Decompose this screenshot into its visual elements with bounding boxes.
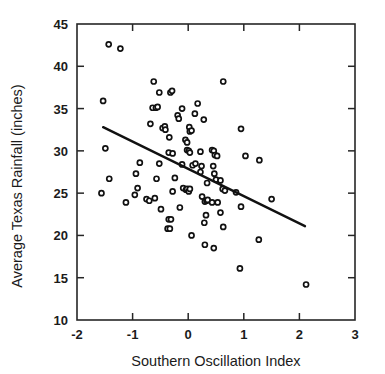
data-point bbox=[170, 88, 175, 93]
y-tick-label: 25 bbox=[54, 186, 68, 201]
data-point bbox=[189, 233, 194, 238]
data-point bbox=[118, 46, 123, 51]
data-point bbox=[218, 178, 223, 183]
scatter-plot-figure: 1015202530354045 -2-10123 Southern Oscil… bbox=[0, 0, 385, 374]
data-point bbox=[212, 171, 217, 176]
data-point bbox=[172, 175, 177, 180]
data-point bbox=[176, 116, 181, 121]
data-point bbox=[221, 224, 226, 229]
data-point bbox=[198, 149, 203, 154]
data-point bbox=[133, 171, 138, 176]
data-point bbox=[189, 128, 194, 133]
data-point bbox=[187, 150, 192, 155]
data-point bbox=[202, 220, 207, 225]
data-point bbox=[106, 42, 111, 47]
data-point bbox=[185, 140, 190, 145]
y-tick-label: 15 bbox=[54, 271, 68, 286]
data-point bbox=[200, 194, 205, 199]
data-point bbox=[148, 121, 153, 126]
data-point bbox=[123, 200, 128, 205]
data-point bbox=[195, 101, 200, 106]
data-point bbox=[215, 200, 220, 205]
data-point bbox=[239, 126, 244, 131]
data-point bbox=[167, 135, 172, 140]
data-point bbox=[158, 207, 163, 212]
y-tick-label: 30 bbox=[54, 144, 68, 159]
data-point bbox=[157, 161, 162, 166]
regression-line bbox=[103, 127, 305, 226]
data-point bbox=[203, 213, 208, 218]
data-point bbox=[215, 153, 220, 158]
scatter-points bbox=[99, 42, 309, 287]
data-point bbox=[201, 117, 206, 122]
data-point bbox=[193, 161, 198, 166]
data-point bbox=[304, 282, 309, 287]
x-tick-label: 1 bbox=[240, 327, 247, 342]
data-point bbox=[132, 192, 137, 197]
y-tick-label: 45 bbox=[54, 17, 68, 32]
data-point bbox=[137, 160, 142, 165]
data-point bbox=[187, 186, 192, 191]
data-point bbox=[170, 189, 175, 194]
data-point bbox=[157, 90, 162, 95]
y-axis-tick-labels: 1015202530354045 bbox=[54, 17, 68, 328]
data-point bbox=[239, 204, 244, 209]
x-tick-label: 3 bbox=[351, 327, 358, 342]
data-point bbox=[107, 176, 112, 181]
data-point bbox=[199, 164, 204, 169]
x-tick-label: 0 bbox=[185, 327, 192, 342]
data-point bbox=[101, 98, 106, 103]
data-point bbox=[202, 242, 207, 247]
trend-line-segment bbox=[103, 127, 305, 226]
data-point bbox=[192, 111, 197, 116]
data-point bbox=[177, 205, 182, 210]
data-point bbox=[170, 151, 175, 156]
data-point bbox=[151, 79, 156, 84]
y-tick-label: 40 bbox=[54, 59, 68, 74]
x-axis-title: Southern Oscillation Index bbox=[131, 353, 301, 369]
data-point bbox=[135, 186, 140, 191]
data-point bbox=[210, 200, 215, 205]
y-axis-title: Average Texas Rainfall (inches) bbox=[9, 84, 25, 287]
data-point bbox=[168, 217, 173, 222]
data-point bbox=[147, 198, 152, 203]
data-point bbox=[237, 266, 242, 271]
data-point bbox=[154, 176, 159, 181]
data-point bbox=[180, 106, 185, 111]
data-point bbox=[167, 226, 172, 231]
data-point bbox=[257, 158, 262, 163]
y-tick-label: 10 bbox=[54, 313, 68, 328]
data-point bbox=[243, 153, 248, 158]
data-point bbox=[103, 146, 108, 151]
y-tick-label: 35 bbox=[54, 102, 68, 117]
data-point bbox=[269, 197, 274, 202]
x-tick-label: 2 bbox=[296, 327, 303, 342]
chart-canvas: 1015202530354045 -2-10123 Southern Oscil… bbox=[0, 0, 385, 374]
data-point bbox=[256, 237, 261, 242]
data-point bbox=[211, 164, 216, 169]
data-point bbox=[152, 196, 157, 201]
data-point bbox=[218, 210, 223, 215]
x-tick-label: -2 bbox=[71, 327, 83, 342]
data-point bbox=[211, 246, 216, 251]
y-tick-label: 20 bbox=[54, 228, 68, 243]
data-point bbox=[163, 127, 168, 132]
data-point bbox=[221, 79, 226, 84]
data-point bbox=[205, 180, 210, 185]
x-tick-label: -1 bbox=[127, 327, 139, 342]
x-axis-tick-labels: -2-10123 bbox=[71, 327, 358, 342]
data-point bbox=[99, 191, 104, 196]
data-point bbox=[155, 104, 160, 109]
